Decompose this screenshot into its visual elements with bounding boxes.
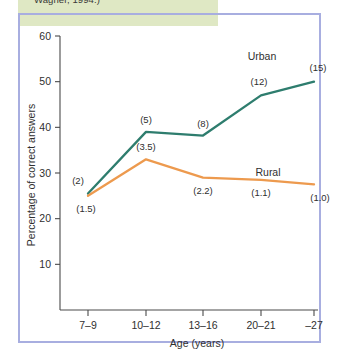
x-tick-label: –27 bbox=[305, 319, 323, 331]
y-axis-title: Percentage of correct answers bbox=[25, 104, 37, 246]
y-tick-label: 20 bbox=[39, 212, 51, 224]
y-tick-label: 60 bbox=[39, 30, 51, 42]
point-label-urban-3: (12) bbox=[251, 76, 268, 87]
series-label-rural: Rural bbox=[255, 166, 280, 178]
point-label-rural-3: (1.1) bbox=[251, 187, 271, 198]
x-axis-title: Age (years) bbox=[170, 337, 224, 349]
point-label-rural-0: (1.5) bbox=[76, 203, 96, 214]
point-label-urban-2: (8) bbox=[197, 118, 209, 129]
y-axis: 102030405060 bbox=[39, 30, 60, 310]
chart-area: 102030405060 7–910–1213–1620–21–27 (2)(5… bbox=[0, 0, 341, 358]
y-tick-label: 30 bbox=[39, 167, 51, 179]
series-lines bbox=[88, 82, 314, 196]
point-label-urban-1: (5) bbox=[140, 114, 152, 125]
point-label-rural-2: (2.2) bbox=[193, 185, 213, 196]
y-tick-label: 40 bbox=[39, 121, 51, 133]
y-tick-label: 50 bbox=[39, 75, 51, 87]
point-label-urban-0: (2) bbox=[72, 175, 84, 186]
x-tick-label: 10–12 bbox=[131, 319, 160, 331]
point-label-urban-4: (15) bbox=[310, 62, 327, 73]
point-labels: (2)(5)(8)(12)(15)(1.5)(3.5)(2.2)(1.1)(1.… bbox=[72, 50, 330, 214]
series-label-urban: Urban bbox=[248, 50, 277, 62]
y-tick-label: 10 bbox=[39, 258, 51, 270]
x-tick-label: 7–9 bbox=[79, 319, 97, 331]
x-axis: 7–910–1213–1620–21–27 bbox=[60, 310, 323, 331]
x-tick-label: 13–16 bbox=[188, 319, 217, 331]
line-chart-svg: 102030405060 7–910–1213–1620–21–27 (2)(5… bbox=[0, 0, 341, 358]
point-label-rural-1: (3.5) bbox=[136, 141, 156, 152]
x-tick-label: 20–21 bbox=[246, 319, 275, 331]
point-label-rural-4: (1.0) bbox=[310, 192, 330, 203]
